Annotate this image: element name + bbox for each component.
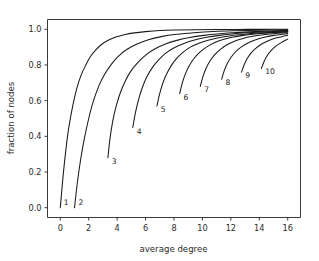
x-tick-label: 0 (58, 223, 63, 233)
axes-frame (48, 20, 301, 218)
curve-series-3 (108, 30, 288, 157)
chart-canvas: 0246810121416 0.00.20.40.60.81.0 1234567… (0, 0, 319, 261)
x-tick-label: 10 (197, 223, 207, 233)
curve-label-5: 5 (161, 105, 166, 114)
curve-series-2 (75, 30, 288, 208)
curve-label-1: 1 (64, 198, 69, 207)
x-axis-tick-labels: 0246810121416 (58, 223, 293, 233)
curve-series-7 (200, 33, 287, 87)
x-axis-title: average degree (139, 244, 207, 254)
curve-label-9: 9 (245, 71, 250, 80)
y-tick-label: 0.2 (28, 167, 41, 177)
curve-label-10: 10 (265, 67, 275, 76)
figure-container: 0246810121416 0.00.20.40.60.81.0 1234567… (0, 0, 319, 261)
curve-series-10 (261, 39, 287, 68)
x-tick-label: 16 (282, 223, 292, 233)
y-axis-title: fraction of nodes (6, 81, 16, 154)
y-tick-label: 0.0 (28, 203, 41, 213)
y-tick-label: 0.4 (28, 131, 41, 141)
curve-series-1 (60, 29, 287, 207)
curve-label-6: 6 (183, 93, 188, 102)
y-tick-label: 0.6 (28, 96, 41, 106)
x-tick-label: 4 (115, 223, 120, 233)
x-tick-label: 12 (226, 223, 236, 233)
curve-label-2: 2 (78, 198, 83, 207)
curve-label-4: 4 (137, 127, 142, 136)
x-tick-label: 14 (254, 223, 264, 233)
curve-label-8: 8 (225, 78, 230, 87)
x-tick-label: 6 (143, 223, 148, 233)
y-tick-label: 1.0 (28, 24, 41, 34)
x-tick-label: 8 (171, 223, 176, 233)
curve-label-3: 3 (112, 157, 117, 166)
x-tick-label: 2 (86, 223, 91, 233)
curve-series-8 (222, 34, 288, 80)
curve-label-7: 7 (204, 85, 209, 94)
y-axis-tick-labels: 0.00.20.40.60.81.0 (28, 24, 41, 212)
y-tick-label: 0.8 (28, 60, 41, 70)
curve-label-group: 12345678910 (64, 67, 275, 207)
curve-series-group (60, 29, 287, 207)
